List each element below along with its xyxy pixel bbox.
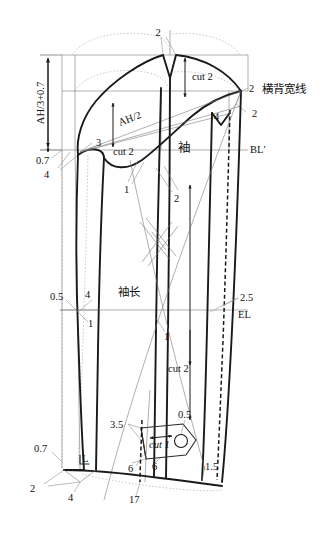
label-cut2-lower: cut 2 — [168, 363, 189, 374]
label-six-right: 6 — [152, 461, 157, 472]
label-corner-L: L — [82, 453, 88, 464]
label-two-bot: 2 — [30, 483, 35, 494]
label-four-mid: 4 — [85, 289, 91, 300]
label-sleeve-length-cn: 袖长 — [118, 285, 141, 299]
label-notch-2: 2 — [174, 193, 179, 204]
right-inner-seam — [202, 113, 212, 480]
label-sleeve-cn: 袖 — [178, 140, 191, 155]
label-bl-line: BL′ — [250, 144, 266, 155]
label-three-five: 3.5 — [110, 419, 123, 430]
label-cap-right-2: 2 — [252, 108, 257, 119]
backwidth-leader — [241, 88, 248, 91]
label-one-lower: 1 — [164, 331, 169, 342]
hem-left-leaders — [44, 470, 80, 492]
callout-cap-right: 4 2 — [214, 91, 257, 122]
label-ah-half: AH/2 — [117, 109, 143, 128]
label-one-five: 1.5 — [205, 461, 218, 472]
ghost-guide-curves — [62, 33, 240, 468]
hem-zero-seven-leader — [52, 452, 62, 462]
label-two-five: 2.5 — [240, 292, 253, 303]
label-ah-third: AH/3+0.7 — [35, 82, 46, 124]
label-four-top: 4 — [44, 169, 50, 180]
label-zero-seven-top: 0.7 — [36, 155, 49, 166]
callout-el-right: 2.5 EL — [210, 292, 253, 320]
grainline-lower: cut 2 — [168, 330, 190, 374]
placket-dashed — [140, 420, 142, 482]
label-cut2-cap: cut 2 — [192, 71, 213, 82]
sleevecap-left-curve — [78, 55, 163, 155]
label-notch-1: 1 — [124, 184, 129, 195]
balance-marks — [140, 218, 178, 266]
left-inner-seam — [96, 158, 104, 470]
label-cut1-tab: cut 1 — [149, 439, 170, 450]
balance-mark-b — [142, 222, 178, 266]
construction-grid — [40, 30, 248, 470]
label-backwidth-2: 2 — [249, 83, 254, 94]
cuff-tab: cut 1 — [141, 424, 196, 459]
placket-guide — [145, 390, 150, 482]
label-seventeen: 17 — [129, 494, 140, 505]
fold-dashed-right — [217, 110, 230, 480]
ah-half-line-c — [80, 114, 228, 152]
label-three: 3 — [96, 137, 101, 148]
label-cap-top-2: 2 — [155, 27, 160, 38]
label-el-line: EL — [238, 309, 251, 320]
one-lower-leader — [156, 318, 165, 332]
label-four-bot: 4 — [68, 492, 74, 503]
button-icon — [175, 435, 188, 448]
left-outer-seam — [77, 155, 85, 470]
cuff-tab-width-arrow — [150, 436, 172, 438]
label-one-mid: 1 — [88, 318, 93, 329]
label-backwidth-text: 横背宽线 — [262, 82, 307, 96]
back-width-line-callout: 2 横背宽线 — [241, 82, 307, 96]
sleevecap-top-notch — [163, 55, 176, 78]
ghost-arc-right-top — [172, 33, 240, 55]
sleeve-pattern-drawing: AH/3+0.7 cut 2 2 2 横背宽线 4 2 — [0, 0, 325, 534]
right-outer-seam — [222, 91, 241, 482]
label-zero-seven-bot: 0.7 — [34, 443, 47, 454]
pattern-canvas: AH/3+0.7 cut 2 2 2 横背宽线 4 2 — [0, 0, 325, 534]
label-zero-five-mid: 0.5 — [50, 291, 63, 302]
bl-left-leaders — [52, 150, 78, 170]
ghost-arc-left-mid — [75, 70, 168, 91]
label-zero-five-tab: 0.5 — [178, 409, 191, 420]
hem-outer-curve — [64, 470, 222, 486]
callout-cap-top: 2 — [155, 27, 176, 55]
label-cut2-under: cut 2 — [113, 146, 134, 157]
button-leader — [181, 420, 185, 434]
callout-el-left: 0.5 4 1 — [50, 289, 100, 329]
label-six-left: 6 — [128, 463, 133, 474]
